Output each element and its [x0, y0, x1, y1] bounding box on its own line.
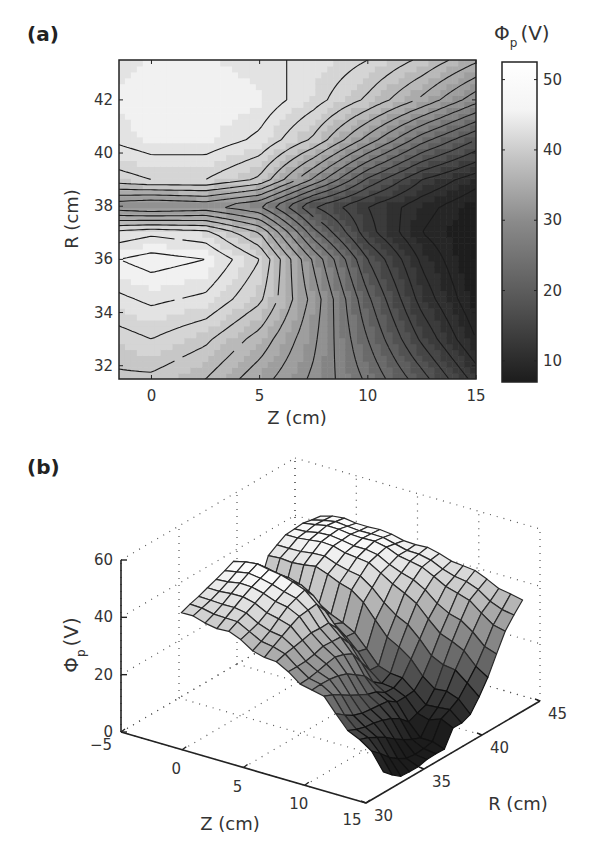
mesh-surface — [181, 516, 522, 776]
svg-text:−5: −5 — [90, 736, 112, 754]
svg-text:Φp(V): Φp(V) — [59, 617, 88, 673]
svg-text:10: 10 — [289, 795, 308, 813]
svg-text:30: 30 — [374, 807, 393, 825]
surface-plot: 0204060−505101530354045 Z (cm) R (cm) Φp… — [0, 0, 589, 861]
phi-axis-label: Φp(V) — [59, 617, 88, 673]
svg-text:40: 40 — [94, 608, 113, 626]
z-axis-label: Z (cm) — [200, 813, 260, 834]
svg-text:60: 60 — [94, 551, 113, 569]
svg-text:0: 0 — [171, 760, 181, 778]
svg-text:15: 15 — [342, 811, 361, 829]
svg-text:35: 35 — [432, 773, 451, 791]
r-axis-label: R (cm) — [488, 793, 548, 814]
svg-text:20: 20 — [94, 666, 113, 684]
svg-text:45: 45 — [548, 705, 567, 723]
svg-text:5: 5 — [233, 778, 243, 796]
svg-text:40: 40 — [490, 739, 509, 757]
